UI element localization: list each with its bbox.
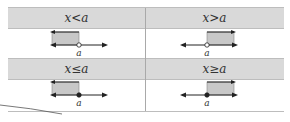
header-row-1: x<a x>a xyxy=(8,8,284,29)
column-divider xyxy=(145,8,146,111)
number-line-x-lt-a: a xyxy=(8,29,145,58)
decorative-curve xyxy=(0,104,70,122)
point-label: a xyxy=(76,48,81,58)
inequality-label-x-le-a: x≤a xyxy=(8,59,145,79)
point-label: a xyxy=(76,98,81,108)
inequality-label-x-ge-a: x≥a xyxy=(146,59,283,79)
number-line-x-ge-a: a xyxy=(146,80,283,109)
point-label: a xyxy=(204,48,209,58)
inequality-table: x<a x>a a a x≤a x≥a xyxy=(8,7,284,112)
number-line-x-gt-a: a xyxy=(146,29,283,58)
point-label: a xyxy=(204,98,209,108)
inequality-label-x-gt-a: x>a xyxy=(146,8,283,28)
header-row-2: x≤a x≥a xyxy=(8,58,284,80)
inequality-label-x-lt-a: x<a xyxy=(8,8,145,28)
